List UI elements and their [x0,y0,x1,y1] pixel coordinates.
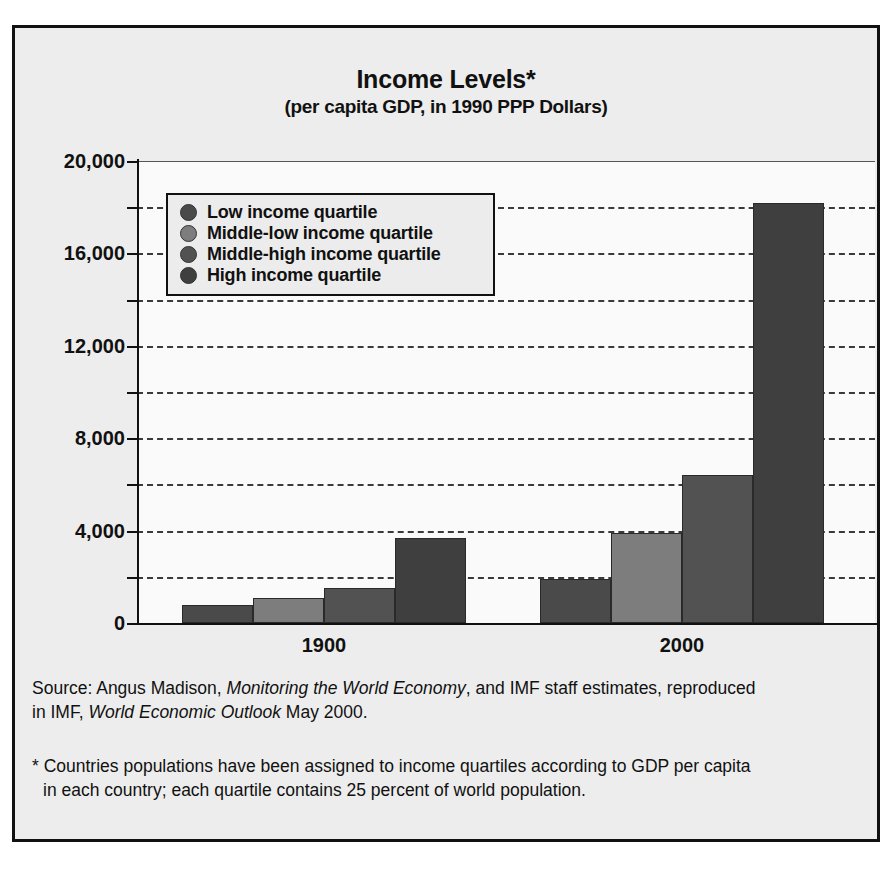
footnote-line-1: * Countries populations have been assign… [32,754,864,778]
y-axis-tick [127,577,138,579]
chart-legend: Low income quartileMiddle-low income qua… [166,193,495,296]
source-note-line-2: in IMF, World Economic Outlook May 2000. [32,700,864,724]
legend-item-label: High income quartile [207,265,381,286]
source-note-line-1: Source: Angus Madison, Monitoring the Wo… [32,676,864,700]
gridline [137,161,875,162]
source-note: Source: Angus Madison, Monitoring the Wo… [32,676,864,724]
bar [395,538,466,623]
y-axis-tick-label: 4,000 [21,519,125,542]
legend-item: Middle-low income quartile [180,223,483,243]
bar [182,605,253,623]
y-axis-tick-label: 20,000 [21,150,125,173]
bar [324,588,395,623]
x-axis-tick-label: 2000 [660,634,705,657]
source-italic-title-1: Monitoring the World Economy [227,678,466,698]
footnote: * Countries populations have been assign… [32,754,864,802]
y-axis-tick [127,253,138,255]
y-axis-tick [127,207,138,209]
legend-marker-circle-icon [180,204,197,221]
bar [540,579,611,623]
y-axis-tick-label: 16,000 [21,242,125,265]
notes-block: Source: Angus Madison, Monitoring the Wo… [32,676,864,803]
y-axis-tick [127,484,138,486]
legend-item-label: Middle-high income quartile [207,244,441,265]
x-axis-line [127,623,877,625]
bar [682,475,753,623]
y-axis-tick-label: 8,000 [21,427,125,450]
y-axis-tick [127,300,138,302]
legend-item-label: Middle-low income quartile [207,223,433,244]
legend-item: Middle-high income quartile [180,244,483,264]
bar [753,203,824,623]
y-axis-tick [127,346,138,348]
y-axis-tick-label: 0 [21,612,125,635]
y-axis-tick [127,161,138,163]
legend-item-label: Low income quartile [207,202,377,223]
legend-marker-circle-icon [180,225,197,242]
y-axis-tick [127,438,138,440]
x-axis-tick-label: 1900 [302,634,347,657]
footnote-line-2: in each country; each quartile contains … [32,778,864,802]
y-axis-tick [127,392,138,394]
source-line2-prefix: in IMF, [32,702,88,722]
bar [611,533,682,623]
bar [253,598,324,623]
chart-figure: Income Levels* (per capita GDP, in 1990 … [12,25,880,842]
legend-item: Low income quartile [180,202,483,222]
legend-item: High income quartile [180,265,483,285]
y-axis-tick [127,623,138,625]
y-axis-tick [127,531,138,533]
source-italic-title-2: World Economic Outlook [88,702,281,722]
source-prefix: Source: Angus Madison, [32,678,227,698]
y-axis-tick-label: 12,000 [21,334,125,357]
source-line2-suffix: May 2000. [281,702,368,722]
legend-marker-circle-icon [180,267,197,284]
legend-marker-circle-icon [180,246,197,263]
source-middle: , and IMF staff estimates, reproduced [466,678,756,698]
